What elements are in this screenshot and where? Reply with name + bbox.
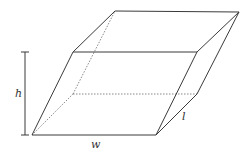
height-label: h [15, 87, 22, 100]
visible-edges [32, 11, 239, 135]
height-dimension [21, 52, 29, 135]
width-label: w [91, 138, 101, 151]
length-label: l [182, 110, 186, 123]
hidden-edges [32, 11, 197, 135]
parallelepiped-diagram: h w l [0, 0, 249, 153]
